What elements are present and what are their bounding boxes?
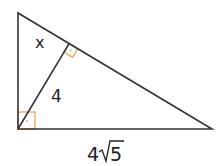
label-x: x <box>35 33 44 52</box>
label-base-radicand: 5 <box>110 143 122 165</box>
label-base: 4 5 <box>87 141 124 165</box>
triangle-diagram: x 4 4 5 <box>0 0 222 166</box>
label-altitude: 4 <box>51 86 62 106</box>
triangle-outline <box>18 13 212 129</box>
label-base-coefficient: 4 <box>87 143 99 165</box>
right-angle-mark-altitude-foot <box>64 44 78 58</box>
